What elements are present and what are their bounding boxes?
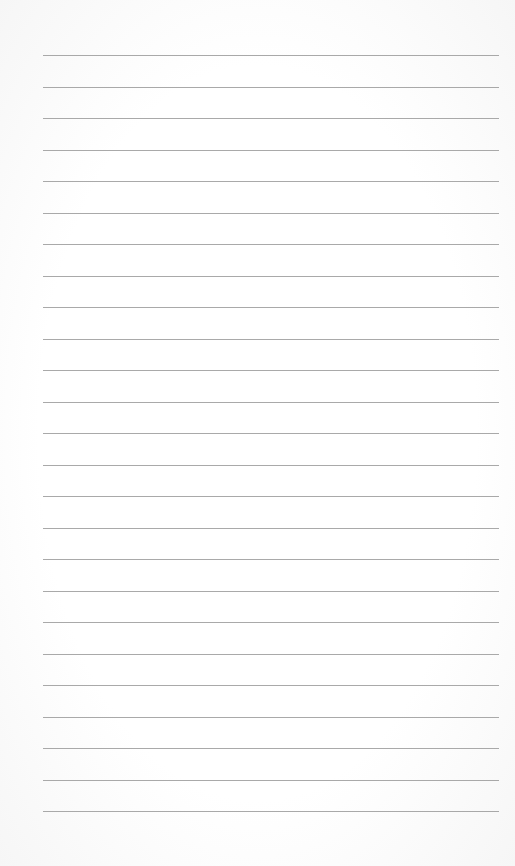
ruled-line	[43, 654, 499, 655]
ruled-line	[43, 811, 499, 812]
ruled-line	[43, 55, 499, 56]
ruled-line	[43, 465, 499, 466]
ruled-line	[43, 213, 499, 214]
ruled-line	[43, 181, 499, 182]
ruled-line	[43, 622, 499, 623]
ruled-line	[43, 244, 499, 245]
ruled-line	[43, 370, 499, 371]
ruled-line	[43, 496, 499, 497]
ruled-line	[43, 402, 499, 403]
ruled-line	[43, 528, 499, 529]
ruled-line	[43, 339, 499, 340]
ruled-line	[43, 780, 499, 781]
ruled-line	[43, 559, 499, 560]
ruled-line	[43, 748, 499, 749]
ruled-line	[43, 87, 499, 88]
ruled-line	[43, 276, 499, 277]
ruled-line	[43, 433, 499, 434]
ruled-line	[43, 591, 499, 592]
ruled-line	[43, 150, 499, 151]
lined-paper-page	[0, 0, 515, 866]
ruled-line	[43, 118, 499, 119]
ruled-line	[43, 307, 499, 308]
ruled-line	[43, 717, 499, 718]
ruled-line	[43, 685, 499, 686]
